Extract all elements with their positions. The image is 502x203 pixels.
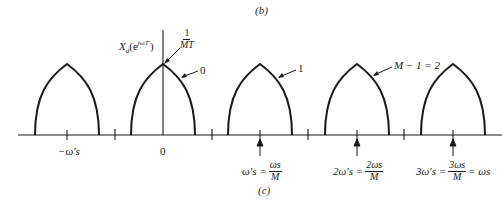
x-label-2ws: 2ω′s = 2ωsM: [333, 160, 383, 182]
x-label-3ws: 3ω′s = 3ωsM = ωs: [416, 160, 490, 182]
peak-value-label: 1MT: [180, 28, 194, 50]
x-label-zero: 0: [160, 146, 166, 157]
x-label-ws: ω′s = ωsM: [242, 160, 282, 182]
frequency-arrows: [257, 139, 456, 156]
lobe-minus-ws: [35, 64, 99, 135]
spectral-lobes: [35, 64, 485, 135]
lobe-3: [421, 64, 485, 135]
y-axis-label: Xd(ejωT'): [119, 40, 154, 55]
lobe-label-0: 0: [200, 65, 206, 76]
lobe-2: [325, 64, 389, 135]
caption-b: (b): [255, 5, 268, 16]
lobe-label-1: 1: [298, 63, 304, 74]
lobe-label-m-minus-1: M − 1 = 2: [394, 60, 440, 71]
x-label-neg-ws: −ω′s: [58, 146, 80, 157]
caption-c: (c): [258, 185, 270, 196]
